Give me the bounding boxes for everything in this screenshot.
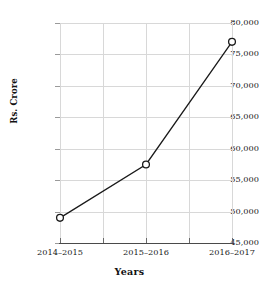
x-axis-title: Years — [0, 266, 259, 277]
line-chart: Rs. Crore 45,00050,00055,00060,00065,000… — [0, 0, 259, 293]
x-axis-tick-mark — [232, 238, 233, 243]
x-axis-tick-mark — [60, 238, 61, 243]
y-axis-title: Rs. Crore — [9, 61, 19, 141]
gridline-vertical — [60, 23, 61, 243]
gridline-vertical — [103, 23, 104, 243]
x-axis-tick-label: 2016–2017 — [192, 247, 259, 257]
plot-area — [60, 23, 232, 243]
x-axis-tick-label: 2014–2015 — [20, 247, 100, 257]
x-axis-tick-mark — [103, 238, 104, 243]
gridline-vertical — [232, 23, 233, 243]
x-axis-tick-label: 2015–2016 — [106, 247, 186, 257]
x-axis-tick-mark — [146, 238, 147, 243]
x-axis-tick-mark — [189, 238, 190, 243]
gridline-vertical — [189, 23, 190, 243]
x-axis-line — [59, 243, 233, 244]
gridline-vertical — [146, 23, 147, 243]
